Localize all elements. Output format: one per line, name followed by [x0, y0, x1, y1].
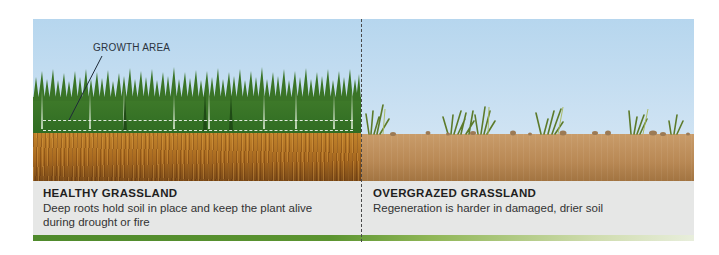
healthy-grassland-title: HEALTHY GRASSLAND	[43, 187, 343, 199]
healthy-grassland-description: Deep roots hold soil in place and keep t…	[43, 201, 343, 229]
comparison-divider	[361, 19, 362, 242]
healthy-grassland-caption: HEALTHY GRASSLAND Deep roots hold soil i…	[43, 187, 343, 229]
grassland-comparison-diagram: GROWTH AREA HEALTHY GRASSLAND Deep roots…	[33, 19, 694, 242]
growth-area-pointer-line	[33, 19, 694, 181]
overgrazed-grassland-description: Regeneration is harder in damaged, drier…	[373, 201, 683, 215]
footer-gradient-bar	[33, 235, 694, 241]
caption-area: HEALTHY GRASSLAND Deep roots hold soil i…	[33, 181, 694, 235]
overgrazed-grassland-title: OVERGRAZED GRASSLAND	[373, 187, 683, 199]
overgrazed-grassland-caption: OVERGRAZED GRASSLAND Regeneration is har…	[373, 187, 683, 215]
illustration-scene: GROWTH AREA	[33, 19, 694, 181]
